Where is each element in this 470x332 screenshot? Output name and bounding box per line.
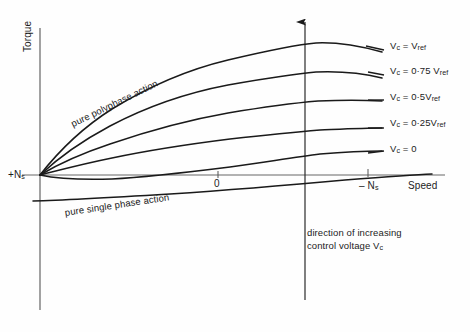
legend-2-value: 0·5V (411, 91, 431, 102)
legend-4-value: 0 (411, 143, 416, 154)
minus-ns-text: – N (359, 180, 375, 191)
origin-label: 0 (214, 178, 220, 189)
legend-4-eq: = (400, 143, 411, 154)
minus-ns-subscript: s (375, 183, 379, 192)
direction-note: direction of increasing control voltage … (307, 226, 402, 254)
minus-ns-label: – Ns (359, 180, 378, 192)
legend-3-eq: = (400, 117, 411, 128)
legend-item-vc-025vref: Vc = 0·25Vref (390, 117, 445, 129)
legend-1-value: 0·75 V (411, 65, 440, 76)
direction-note-line2-subscript: c (379, 243, 383, 252)
legend-0-eq: = (400, 40, 411, 51)
legend-item-vc-vref: Vc = Vref (390, 40, 426, 52)
legend-item-vc-05vref: Vc = 0·5Vref (390, 91, 440, 103)
plus-ns-subscript: s (21, 172, 25, 181)
legend-item-vc-zero: Vc = 0 (390, 143, 417, 155)
plus-ns-text: +N (8, 169, 21, 180)
legend-0-value-sub: ref (418, 43, 426, 52)
legend-3-value: 0·25V (411, 117, 437, 128)
legend-item-vc-075vref: Vc = 0·75 Vref (390, 65, 448, 77)
torque-axis-label: Torque (22, 21, 33, 52)
legend-3-value-sub: ref (437, 120, 445, 129)
legend-2-eq: = (400, 91, 411, 102)
legend-1-eq: = (400, 65, 411, 76)
direction-note-line2: control voltage Vc (307, 239, 402, 254)
plus-ns-label: +Ns (8, 169, 25, 181)
legend-leader-1 (368, 72, 384, 75)
legend-1-value-sub: ref (440, 68, 448, 77)
torque-speed-diagram: Torque Speed 0 +Ns – Ns pure polyphase a… (0, 0, 470, 332)
curve-vc-025vref (40, 128, 382, 175)
direction-note-line1: direction of increasing (307, 226, 402, 239)
speed-axis-label: Speed (408, 180, 437, 191)
direction-note-line2-text: control voltage V (307, 240, 379, 251)
legend-2-value-sub: ref (432, 94, 440, 103)
